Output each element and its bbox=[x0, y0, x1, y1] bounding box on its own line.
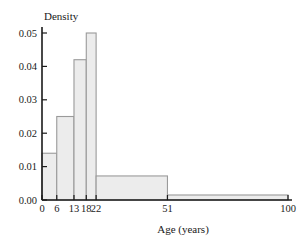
histogram-chart: 0.000.010.020.030.040.05 0613182251100 D… bbox=[0, 0, 306, 250]
y-tick-label: 0.03 bbox=[19, 94, 37, 105]
x-tick-label: 13 bbox=[69, 203, 80, 214]
histogram-bar bbox=[42, 153, 57, 200]
x-tick-label: 0 bbox=[39, 203, 44, 214]
x-tick-label: 22 bbox=[91, 203, 102, 214]
histogram-bar bbox=[86, 33, 96, 200]
x-tick-label: 100 bbox=[280, 203, 296, 214]
y-tick-label: 0.00 bbox=[19, 195, 37, 206]
y-tick-label: 0.05 bbox=[19, 28, 37, 39]
bars-group bbox=[42, 33, 288, 200]
histogram-bar bbox=[57, 117, 74, 201]
histogram-bar bbox=[74, 60, 86, 200]
chart-canvas: 0.000.010.020.030.040.05 0613182251100 D… bbox=[0, 0, 306, 250]
y-tick-label: 0.04 bbox=[19, 61, 38, 72]
y-tick-label: 0.02 bbox=[19, 128, 37, 139]
x-axis-title: Age (years) bbox=[157, 223, 209, 236]
y-tick-label: 0.01 bbox=[19, 161, 37, 172]
x-tick-label: 6 bbox=[54, 203, 59, 214]
x-tick-label: 51 bbox=[162, 203, 173, 214]
y-axis-title: Density bbox=[44, 10, 79, 22]
histogram-bar bbox=[96, 176, 167, 200]
